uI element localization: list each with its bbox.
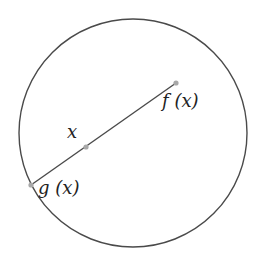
circle bbox=[19, 19, 247, 247]
label-g: g (x) bbox=[38, 177, 79, 198]
segment-g-to-f bbox=[31, 83, 176, 185]
label-f: f (x) bbox=[160, 90, 199, 111]
point-g bbox=[28, 182, 33, 187]
circle-diagram: f (x) x g (x) bbox=[0, 0, 257, 264]
point-f bbox=[173, 80, 178, 85]
point-x bbox=[83, 144, 88, 149]
label-x: x bbox=[67, 121, 77, 142]
